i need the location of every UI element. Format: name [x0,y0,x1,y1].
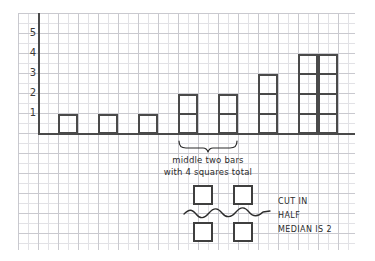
bar-7-cell-divider-a [298,73,318,75]
bar-6 [258,74,278,134]
y-tick-5: 5 [22,28,36,38]
bar-8-cell-divider-a [318,73,338,75]
y-tick-2: 2 [22,88,36,98]
loose-square-bottom-2 [233,222,253,242]
bar-8-cell-divider-b [318,93,338,95]
brace-caption-line-2: with 4 squares total [128,167,288,177]
bar-6-cell-divider-a [258,93,278,95]
bar-8-cell-divider-c [318,113,338,115]
y-axis-line [38,13,40,135]
bar-5-cell-divider [218,113,238,115]
bar-7-cell-divider-c [298,113,318,115]
bar-2 [98,114,118,134]
bar-1 [58,114,78,134]
label-half: HALF [278,211,300,220]
bar-7-cell-divider-b [298,93,318,95]
y-tick-3: 3 [22,68,36,78]
label-cut-in: CUT IN [278,197,308,206]
label-median-is-2: MEDIAN IS 2 [278,225,332,234]
bar-4-cell-divider [178,113,198,115]
y-tick-1: 1 [22,108,36,118]
loose-square-top-1 [193,185,213,205]
bar-3 [138,114,158,134]
bar-6-cell-divider-b [258,113,278,115]
loose-square-bottom-1 [193,222,213,242]
brace-caption-line-1: middle two bars [128,155,288,165]
y-tick-4: 4 [22,48,36,58]
figure-canvas: 5 4 3 2 1 middle two bars with 4 squares… [0,0,375,261]
loose-square-top-2 [233,185,253,205]
